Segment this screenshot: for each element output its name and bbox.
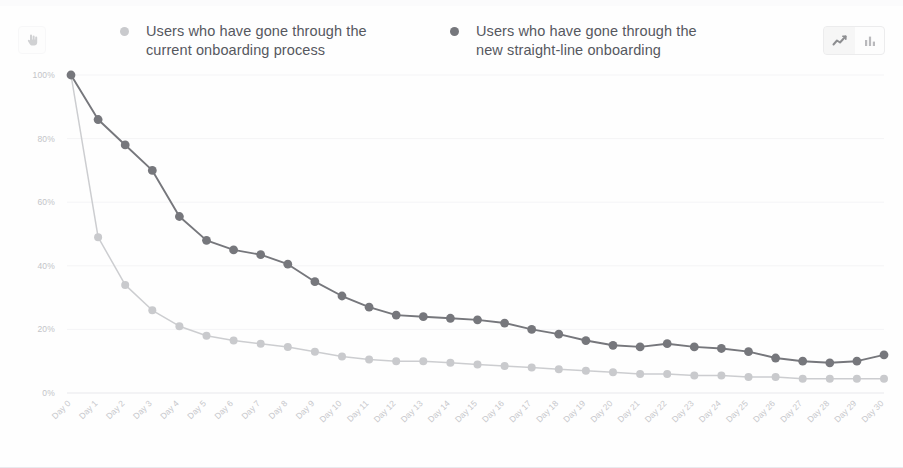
y-axis-tick-label: 40% [37,261,55,271]
series-data-point[interactable] [311,277,320,286]
series-data-point[interactable] [528,364,536,372]
series-data-point[interactable] [853,375,861,383]
series-data-point[interactable] [175,322,183,330]
series-data-point[interactable] [365,356,373,364]
series-data-point[interactable] [202,236,211,245]
series-data-point[interactable] [771,354,780,363]
series-data-point[interactable] [825,358,834,367]
y-axis-tick-label: 20% [37,324,55,334]
series-data-point[interactable] [582,336,591,345]
series-data-point[interactable] [582,367,590,375]
series-data-point[interactable] [338,292,347,301]
series-data-point[interactable] [311,348,319,356]
chart-series-layer [67,71,889,383]
series-data-point[interactable] [745,373,753,381]
x-axis-tick-label: Day 21 [615,398,641,424]
x-axis-tick-label: Day 24 [697,398,723,424]
series-data-point[interactable] [717,372,725,380]
x-axis-tick-label: Day 16 [480,398,506,424]
series-data-point[interactable] [500,319,509,328]
series-data-point[interactable] [772,373,780,381]
x-axis-tick-label: Day 7 [239,398,262,421]
x-axis-tick-label: Day 17 [507,398,533,424]
series-data-point[interactable] [94,233,102,241]
x-axis-tick-label: Day 9 [294,398,317,421]
x-axis-tick-label: Day 10 [317,398,343,424]
series-data-point[interactable] [338,352,346,360]
series-data-point[interactable] [609,341,618,350]
series-data-point[interactable] [175,212,184,221]
y-axis-tick-label: 80% [37,134,55,144]
series-data-point[interactable] [880,350,889,359]
series-data-point[interactable] [229,246,238,255]
series-data-point[interactable] [256,250,265,259]
series-data-point[interactable] [609,368,617,376]
x-axis-labels: Day 0Day 1Day 2Day 3Day 4Day 5Day 6Day 7… [50,398,886,424]
series-data-point[interactable] [419,312,428,321]
x-axis-tick-label: Day 5 [185,398,208,421]
x-axis-tick-label: Day 23 [670,398,696,424]
series-data-point[interactable] [392,311,401,320]
x-axis-tick-label: Day 25 [724,398,750,424]
series-data-point[interactable] [880,375,888,383]
x-axis-tick-label: Day 13 [399,398,425,424]
x-axis-tick-label: Day 6 [212,398,235,421]
x-axis-tick-label: Day 18 [534,398,560,424]
series-data-point[interactable] [554,330,563,339]
x-axis-tick-label: Day 12 [371,398,397,424]
series-data-point[interactable] [744,347,753,356]
series-data-point[interactable] [365,303,374,312]
series-data-point[interactable] [148,166,157,175]
x-axis-tick-label: Day 30 [859,398,885,424]
series-data-point[interactable] [94,115,103,124]
chart-card: Users who have gone through the current … [0,0,903,468]
x-axis-tick-label: Day 27 [778,398,804,424]
y-axis-labels: 0%20%40%60%80%100% [32,70,55,398]
x-axis-tick-label: Day 1 [77,398,100,421]
x-axis-tick-label: Day 26 [751,398,777,424]
x-axis-tick-label: Day 11 [345,398,371,424]
x-axis-tick-label: Day 22 [642,398,668,424]
series-data-point[interactable] [853,357,862,366]
y-axis-tick-label: 60% [37,197,55,207]
series-data-point[interactable] [717,344,726,353]
series-data-point[interactable] [501,362,509,370]
series-data-point[interactable] [446,359,454,367]
series-data-point[interactable] [121,281,129,289]
series-data-point[interactable] [392,357,400,365]
x-axis-tick-label: Day 14 [426,398,452,424]
series-data-point[interactable] [121,141,130,150]
series-data-point[interactable] [826,375,834,383]
x-axis-tick-label: Day 20 [588,398,614,424]
x-axis-tick-label: Day 28 [805,398,831,424]
series-data-point[interactable] [283,260,292,269]
series-data-point[interactable] [284,343,292,351]
series-data-point[interactable] [446,314,455,323]
chart-gridlines [67,75,884,393]
chart-plot-area: 0%20%40%60%80%100% Day 0Day 1Day 2Day 3D… [0,0,903,468]
series-data-point[interactable] [419,357,427,365]
series-data-point[interactable] [148,306,156,314]
series-data-point[interactable] [799,375,807,383]
x-axis-tick-label: Day 15 [453,398,479,424]
y-axis-tick-label: 0% [42,388,55,398]
series-data-point[interactable] [527,325,536,334]
series-data-point[interactable] [798,357,807,366]
series-data-point[interactable] [690,342,699,351]
x-axis-tick-label: Day 19 [561,398,587,424]
series-data-point[interactable] [636,342,645,351]
y-axis-tick-label: 100% [32,70,55,80]
series-data-point[interactable] [636,370,644,378]
series-data-point[interactable] [690,372,698,380]
series-data-point[interactable] [663,370,671,378]
x-axis-tick-label: Day 8 [266,398,289,421]
series-data-point[interactable] [473,315,482,324]
series-data-point[interactable] [663,339,672,348]
series-data-point[interactable] [203,332,211,340]
series-data-point[interactable] [555,365,563,373]
series-data-point[interactable] [474,360,482,368]
series-data-point[interactable] [230,337,238,345]
series-data-point[interactable] [257,340,265,348]
x-axis-tick-label: Day 29 [832,398,858,424]
series-data-point[interactable] [67,71,76,80]
